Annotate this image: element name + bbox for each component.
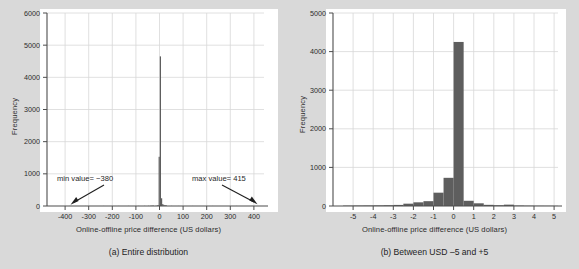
panel-a-x-axis-label: Online-offline price difference (US doll…: [4, 225, 293, 234]
panel-a-xtick-label: -200: [105, 212, 119, 221]
panel-b-ytick-label: 2000: [310, 124, 326, 133]
panel-a-xtick-label: 200: [201, 212, 213, 221]
panel-b-xtick-label: 4: [532, 212, 536, 221]
panel-a-xtick-label: -400: [58, 212, 72, 221]
panel-b-ytick-label: 4000: [310, 47, 326, 56]
panel-a-xtick-label: 100: [177, 212, 189, 221]
panel-a-ytick-label: 5000: [24, 41, 40, 50]
panel-b-gridlines-x: [353, 13, 554, 206]
panel-b-ytick-label: 5000: [310, 9, 326, 18]
panel-b-gridlines-y: [333, 13, 558, 167]
panel-b-xtick-label: -1: [430, 212, 436, 221]
panel-a-bars: [70, 56, 253, 206]
panel-a-ytick-label: 6000: [24, 9, 40, 18]
panel-a-ytick-label: 2000: [24, 137, 40, 146]
panel-b-xtick-label: -4: [370, 212, 376, 221]
panel-b-x-axis-label: Online-offline price difference (US doll…: [290, 225, 579, 234]
panel-a-caption: (a) Entire distribution: [4, 247, 293, 257]
panel-a-ytick-label: 3000: [24, 105, 40, 114]
panel-b-xtick-label: 5: [552, 212, 556, 221]
panel-a-xtick-label: -100: [129, 212, 143, 221]
panel-a-ytick-label: 0: [36, 202, 40, 211]
panel-b-ytick-label: 0: [322, 202, 326, 211]
panel-b-xtick-label: -3: [390, 212, 396, 221]
panel-a-y-axis-label: Frequency: [10, 98, 19, 135]
panel-b-y-ticks: [329, 13, 333, 206]
panel-a-min-annotation-arrow: [71, 185, 105, 205]
panel-a-x-ticks: [65, 206, 254, 210]
panel-a-y-ticks: [43, 13, 47, 206]
panel-b-x-ticks: [353, 206, 554, 210]
panel-b-xtick-label: 3: [512, 212, 516, 221]
panel-b-xtick-label: 0: [452, 212, 456, 221]
panel-b-ytick-label: 1000: [310, 163, 326, 172]
panel-a-xtick-label: 0: [158, 212, 162, 221]
panel-a-ytick-label: 1000: [24, 169, 40, 178]
panel-a-max-annotation-label: max value= 415: [192, 174, 246, 183]
panel-b-xtick-label: -5: [350, 212, 356, 221]
panel-a-xtick-label: 400: [248, 212, 260, 221]
panel-a-min-annotation-label: min value= −380: [57, 174, 113, 183]
figure-root: 6000 5000 4000 3000 2000 1000 0 -400 -30…: [0, 0, 579, 269]
panel-b-ytick-label: 3000: [310, 86, 326, 95]
panel-b-xtick-label: -2: [410, 212, 416, 221]
panel-a-ytick-label: 4000: [24, 73, 40, 82]
panel-b-caption: (b) Between USD –5 and +5: [290, 247, 579, 257]
panel-b-xtick-label: 2: [492, 212, 496, 221]
panel-b-y-axis-label: Frequency: [298, 96, 307, 133]
panel-b-between-usd-minus5-and-plus5: 5000 4000 3000 2000 1000 0 -5 -4 -3 -2 -…: [290, 0, 579, 269]
panel-a-max-annotation-arrow: [222, 185, 258, 204]
panel-a-xtick-label: -300: [82, 212, 96, 221]
panel-b-xtick-label: 1: [472, 212, 476, 221]
panel-a-entire-distribution: 6000 5000 4000 3000 2000 1000 0 -400 -30…: [0, 0, 289, 269]
panel-b-bars: [343, 42, 558, 206]
panel-a-xtick-label: 300: [224, 212, 236, 221]
panel-a-gridlines-y: [47, 13, 264, 174]
